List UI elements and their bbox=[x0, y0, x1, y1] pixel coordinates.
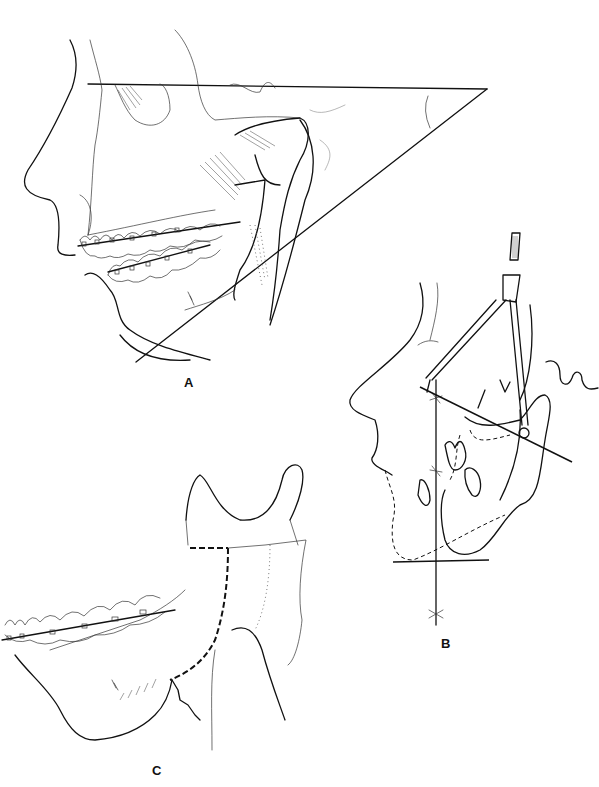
panel-label-a: A bbox=[184, 375, 193, 390]
panel-label-c: C bbox=[152, 763, 161, 778]
panel-c-drawing bbox=[2, 465, 306, 750]
illustration-canvas bbox=[0, 0, 599, 787]
panel-a-drawing bbox=[24, 30, 487, 362]
panel-label-b: B bbox=[441, 636, 450, 651]
panel-b-drawing bbox=[350, 233, 598, 625]
